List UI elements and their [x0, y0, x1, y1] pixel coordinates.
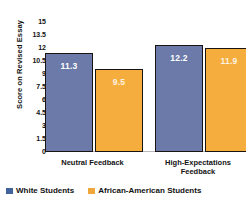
category-label-line1: Neutral Feedback	[40, 158, 145, 167]
category-label-high-expectations-feedback: High-Expectations Feedback	[150, 158, 246, 176]
bar-value-label: 11.9	[206, 56, 246, 66]
plot-area: 11.3 9.5 12.2 11.9	[45, 21, 246, 152]
bar-high-expectations-african-american[interactable]: 11.9	[205, 48, 246, 152]
y-axis-tick-labels: 15 13.5 12 10.5 9 7.5 6 4.5 3 1.5 0	[22, 18, 46, 158]
bar-high-expectations-white[interactable]: 12.2	[155, 45, 203, 152]
bar-neutral-african-american[interactable]: 9.5	[95, 69, 143, 152]
bar-neutral-white[interactable]: 11.3	[45, 53, 93, 152]
category-label-line1: High-Expectations	[150, 158, 246, 167]
legend-label: White Students	[16, 186, 74, 195]
legend-swatch-icon	[88, 188, 95, 194]
legend-item-african-american-students[interactable]: African-American Students	[88, 186, 201, 195]
legend-label: African-American Students	[98, 186, 201, 195]
legend-item-white-students[interactable]: White Students	[6, 186, 74, 195]
bar-value-label: 11.3	[46, 61, 92, 71]
category-label-neutral-feedback: Neutral Feedback	[40, 158, 145, 167]
bar-chart: Score on Revised Essay 15 13.5 12 10.5 9…	[0, 0, 246, 203]
legend-swatch-icon	[6, 188, 13, 194]
category-label-line2: Feedback	[150, 167, 246, 176]
y-tick-13-5: 13.5	[32, 31, 46, 38]
bar-value-label: 9.5	[96, 77, 142, 87]
y-tick-10-5: 10.5	[32, 57, 46, 64]
bar-value-label: 12.2	[156, 53, 202, 63]
chart-legend: White Students African-American Students	[6, 186, 201, 195]
